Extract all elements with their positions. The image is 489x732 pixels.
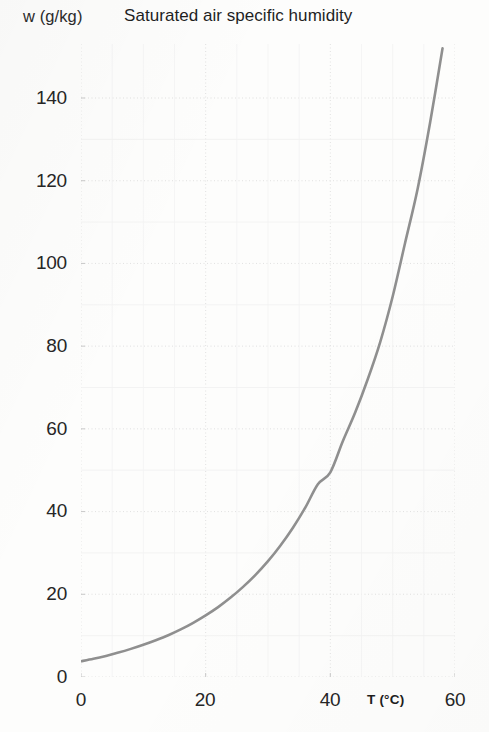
y-tick-label: 120	[5, 170, 67, 192]
chart-title: Saturated air specific humidity	[124, 6, 352, 26]
x-axis-title: T (°C)	[367, 692, 404, 707]
y-tick-label: 20	[5, 583, 67, 605]
chart-figure: w (g/kg) Saturated air specific humidity…	[0, 0, 489, 732]
y-tick-label: 60	[5, 418, 67, 440]
y-tick-label: 0	[5, 666, 67, 688]
y-tick-label: 40	[5, 500, 67, 522]
chart-header: w (g/kg) Saturated air specific humidity	[0, 0, 489, 40]
y-tick-label: 140	[5, 87, 67, 109]
plot-area	[81, 44, 455, 677]
y-tick-label: 80	[5, 335, 67, 357]
x-tick-label: 40	[300, 689, 360, 711]
y-axis-title: w (g/kg)	[23, 7, 82, 26]
x-tick-label: 20	[175, 689, 235, 711]
minor-gridlines	[81, 44, 455, 677]
y-tick-label: 100	[5, 252, 67, 274]
chart-plot-svg	[81, 44, 455, 677]
x-tick-label: 60	[425, 689, 485, 711]
x-tick-label: 0	[51, 689, 111, 711]
saturation-curve	[81, 48, 443, 661]
